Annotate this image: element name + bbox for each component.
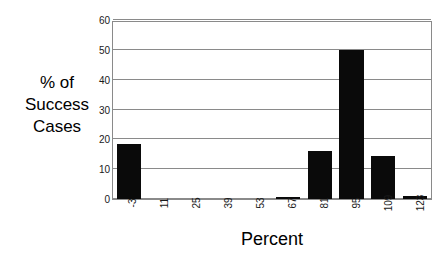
x-axis-tick-label: 109	[384, 195, 394, 212]
bar-slot	[208, 22, 240, 199]
x-axis-tick-label: 81	[320, 197, 330, 208]
x-axis-tick-slot: 39	[208, 202, 240, 228]
y-axis-tick-label: 40	[84, 76, 110, 86]
bar-slot	[399, 22, 431, 199]
y-axis-tick-label: 0	[84, 195, 110, 205]
x-axis-tick-label: 95	[352, 197, 362, 208]
x-axis-tick-slot: 109	[368, 202, 400, 228]
x-axis-tick-label: 11	[160, 198, 170, 208]
gridline	[113, 19, 431, 20]
x-axis-tick-slot: 11	[144, 202, 176, 228]
bar[interactable]	[308, 151, 332, 199]
bar-slot	[145, 22, 177, 199]
y-axis-tick-label: 10	[84, 165, 110, 175]
bar-slot	[367, 22, 399, 199]
x-axis-tick-label: 39	[224, 197, 234, 208]
y-axis-tick-label: 50	[84, 46, 110, 56]
x-axis-tick-slot: 81	[304, 202, 336, 228]
x-axis-tick-label: 123	[416, 195, 426, 212]
x-axis-tick-slot: 67	[272, 202, 304, 228]
bar[interactable]	[117, 144, 141, 199]
x-axis-tick-slot: 95	[336, 202, 368, 228]
x-axis-tick-label: -3	[128, 199, 138, 208]
bar-slot	[304, 22, 336, 199]
bar-chart-figure: % of Success Cases 0102030405060 -311253…	[0, 0, 446, 259]
y-axis-tick-label: 20	[84, 135, 110, 145]
bar-slot	[336, 22, 368, 199]
bar-slot	[272, 22, 304, 199]
x-axis-tick-slot: 25	[176, 202, 208, 228]
y-axis-tick-labels: 0102030405060	[80, 21, 110, 200]
bar[interactable]	[371, 156, 395, 199]
bar-slot	[240, 22, 272, 199]
x-axis-tick-labels: -311253953678195109123	[112, 202, 432, 228]
y-axis-tick-label: 60	[84, 16, 110, 26]
bar-slot	[113, 22, 145, 199]
bars-group	[113, 22, 431, 199]
x-axis-tick-label: 25	[192, 197, 202, 208]
x-axis-title: Percent	[112, 228, 432, 250]
y-axis-tick-label: 30	[84, 106, 110, 116]
x-axis-tick-slot: 123	[400, 202, 432, 228]
bar[interactable]	[339, 50, 363, 199]
bar-slot	[177, 22, 209, 199]
plot-area	[112, 21, 432, 200]
x-axis-tick-slot: 53	[240, 202, 272, 228]
x-axis-tick-slot: -3	[112, 202, 144, 228]
x-axis-tick-label: 53	[256, 197, 266, 208]
x-axis-tick-label: 67	[288, 197, 298, 208]
